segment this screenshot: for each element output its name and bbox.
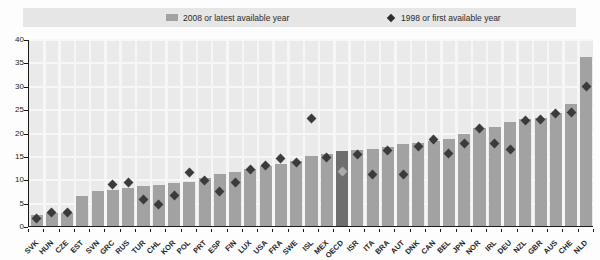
bar-chart: 0510152025303540 SVKHUNCZEESTSVNGRCRUSTU… bbox=[0, 36, 600, 260]
legend: 2008 or latest available year 1998 or fi… bbox=[23, 8, 576, 27]
x-tick-mark bbox=[59, 229, 60, 232]
plot-area bbox=[28, 40, 593, 227]
x-tick-mark bbox=[181, 229, 182, 232]
x-tick-mark bbox=[165, 229, 166, 232]
bar-ita bbox=[367, 149, 379, 226]
bar-dnk bbox=[412, 143, 424, 226]
bar-deu bbox=[504, 122, 516, 226]
bar-est bbox=[76, 196, 88, 226]
bar-pol bbox=[183, 182, 195, 226]
bar-nor bbox=[473, 128, 485, 226]
bar-usa bbox=[260, 166, 272, 226]
x-tick-mark bbox=[257, 229, 258, 232]
bar-nzl bbox=[519, 119, 531, 226]
x-tick-mark bbox=[227, 229, 228, 232]
bar-lux bbox=[244, 169, 256, 226]
gridline-vertical bbox=[43, 40, 46, 226]
legend-item-1998: 1998 or first available year bbox=[386, 8, 501, 27]
bar-esp bbox=[214, 174, 226, 226]
x-tick-mark bbox=[532, 229, 533, 232]
bar-prt bbox=[199, 178, 211, 226]
y-tick-label: 40 bbox=[0, 36, 24, 44]
x-tick-mark bbox=[517, 229, 518, 232]
x-tick-mark bbox=[318, 229, 319, 232]
x-tick-mark bbox=[89, 229, 90, 232]
diamond-marker-isl bbox=[307, 114, 317, 124]
x-tick-mark bbox=[440, 229, 441, 232]
x-tick-mark bbox=[410, 229, 411, 232]
y-tick-label: 5 bbox=[0, 200, 24, 208]
x-tick-mark bbox=[120, 229, 121, 232]
x-tick-mark bbox=[74, 229, 75, 232]
x-tick-mark bbox=[486, 229, 487, 232]
x-tick-mark bbox=[135, 229, 136, 232]
y-tick-label: 20 bbox=[0, 130, 24, 138]
x-tick-mark bbox=[593, 229, 594, 232]
x-tick-mark bbox=[456, 229, 457, 232]
x-tick-mark bbox=[364, 229, 365, 232]
bar-gbr bbox=[535, 118, 547, 226]
bar-grc bbox=[107, 190, 119, 226]
x-tick-mark bbox=[547, 229, 548, 232]
diamond-marker-pol bbox=[184, 167, 194, 177]
bar-che bbox=[565, 104, 577, 226]
bar-fra bbox=[275, 164, 287, 226]
x-tick-mark bbox=[150, 229, 151, 232]
y-tick-label: 35 bbox=[0, 59, 24, 67]
x-tick-mark bbox=[104, 229, 105, 232]
x-tick-mark bbox=[242, 229, 243, 232]
gridline-horizontal bbox=[29, 109, 593, 111]
x-tick-mark bbox=[562, 229, 563, 232]
bar-aus bbox=[550, 113, 562, 226]
x-tick-mark bbox=[394, 229, 395, 232]
x-tick-mark bbox=[211, 229, 212, 232]
x-tick-mark bbox=[288, 229, 289, 232]
bar-oecd bbox=[336, 151, 348, 226]
x-tick-mark bbox=[303, 229, 304, 232]
gridline-horizontal bbox=[29, 86, 593, 88]
x-tick-mark bbox=[272, 229, 273, 232]
bar-bra bbox=[382, 147, 394, 226]
y-tick-label: 25 bbox=[0, 106, 24, 114]
x-tick-mark bbox=[578, 229, 579, 232]
legend-item-2008: 2008 or latest available year bbox=[166, 8, 289, 27]
x-tick-mark bbox=[43, 229, 44, 232]
x-tick-mark bbox=[333, 229, 334, 232]
y-tick-label: 15 bbox=[0, 153, 24, 161]
bar-kor bbox=[168, 183, 180, 226]
gridline-horizontal bbox=[29, 39, 593, 41]
bar-isr bbox=[351, 150, 363, 226]
x-tick-mark bbox=[471, 229, 472, 232]
x-tick-mark bbox=[379, 229, 380, 232]
x-tick-mark bbox=[196, 229, 197, 232]
legend-label-2008: 2008 or latest available year bbox=[183, 13, 289, 23]
bar-svn bbox=[92, 191, 104, 226]
bar-can bbox=[428, 141, 440, 226]
y-tick-label: 30 bbox=[0, 83, 24, 91]
bar-mex bbox=[321, 154, 333, 226]
y-tick-label: 10 bbox=[0, 176, 24, 184]
y-tick-label: 0 bbox=[0, 223, 24, 231]
bar-swatch-icon bbox=[166, 14, 178, 21]
x-tick-mark bbox=[28, 229, 29, 232]
x-tick-mark bbox=[501, 229, 502, 232]
gridline-horizontal bbox=[29, 62, 593, 64]
legend-label-1998: 1998 or first available year bbox=[401, 13, 501, 23]
bar-aut bbox=[397, 144, 409, 226]
x-tick-mark bbox=[425, 229, 426, 232]
bar-rus bbox=[122, 188, 134, 226]
bar-tur bbox=[137, 186, 149, 226]
gridline-vertical bbox=[58, 40, 61, 226]
diamond-marker-grc bbox=[108, 180, 118, 190]
bar-swe bbox=[290, 161, 302, 226]
diamond-swatch-icon bbox=[387, 13, 395, 21]
figure: 2008 or latest available year 1998 or fi… bbox=[0, 0, 600, 260]
x-tick-mark bbox=[349, 229, 350, 232]
bar-isl bbox=[305, 156, 317, 226]
